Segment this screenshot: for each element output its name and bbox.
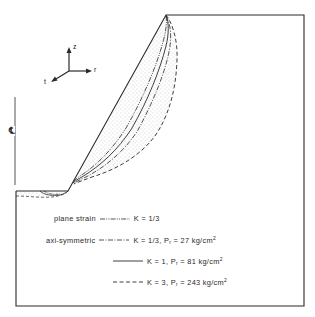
slope-cross-section [0,0,315,317]
yield-zone-stipple [74,15,177,184]
centerline-label: ℄ [9,126,15,136]
axis-r-label: r [94,66,96,73]
axis-z-label: z [73,43,77,50]
axis-t-label: t [44,78,46,85]
axes-triad [51,47,92,82]
